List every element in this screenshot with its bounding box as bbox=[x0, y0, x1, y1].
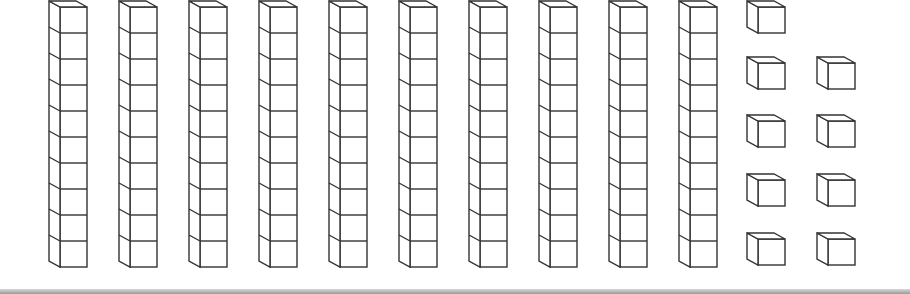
tens-rod bbox=[679, 1, 717, 267]
unit-cube bbox=[747, 174, 785, 206]
unit-cube bbox=[747, 115, 785, 147]
unit-cube bbox=[817, 115, 855, 147]
tens-rod bbox=[119, 1, 157, 267]
tens-rod bbox=[399, 1, 437, 267]
unit-cube bbox=[817, 233, 855, 265]
unit-cube bbox=[747, 233, 785, 265]
unit-cube bbox=[817, 174, 855, 206]
tens-rod bbox=[469, 1, 507, 267]
unit-cube bbox=[817, 57, 855, 89]
base-ten-blocks-diagram bbox=[0, 0, 910, 294]
tens-rod bbox=[49, 1, 87, 267]
unit-cube bbox=[747, 57, 785, 89]
tens-rod bbox=[189, 1, 227, 267]
bottom-bar bbox=[0, 289, 910, 294]
tens-rod bbox=[609, 1, 647, 267]
unit-cube bbox=[747, 1, 785, 33]
tens-rods bbox=[49, 1, 717, 267]
tens-rod bbox=[539, 1, 577, 267]
unit-cubes bbox=[747, 1, 855, 265]
tens-rod bbox=[259, 1, 297, 267]
tens-rod bbox=[329, 1, 367, 267]
